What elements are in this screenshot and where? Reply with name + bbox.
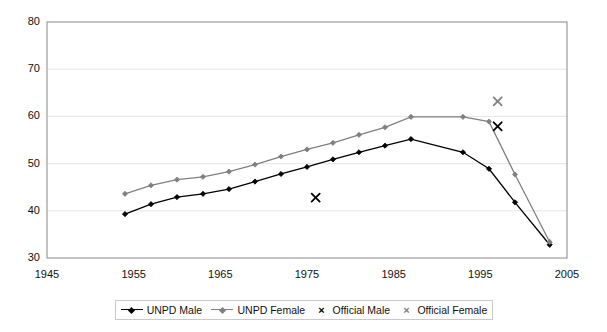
data-point (148, 183, 153, 188)
legend-x-marker-icon: × (315, 305, 329, 316)
data-point (356, 132, 361, 137)
legend-item[interactable]: ×Official Male (313, 304, 393, 316)
legend-label: UNPD Female (237, 304, 305, 316)
chart-plot-area (0, 0, 607, 332)
chart-container: 304050607080 194519551965197519851995200… (0, 0, 607, 332)
legend-x-marker-icon: × (399, 305, 413, 316)
data-point (278, 171, 283, 176)
chart-legend: UNPD MaleUNPD Female×Official Male×Offic… (115, 300, 493, 320)
x-axis-tick-label: 1985 (369, 268, 419, 280)
y-axis-tick-label: 70 (8, 62, 40, 74)
legend-item[interactable]: UNPD Male (119, 304, 204, 316)
data-point (148, 202, 153, 207)
y-axis-tick-label: 60 (8, 109, 40, 121)
data-point (486, 119, 491, 124)
legend-label: Official Female (417, 304, 487, 316)
data-point (382, 125, 387, 130)
legend-item[interactable]: UNPD Female (209, 304, 307, 316)
legend-item[interactable]: ×Official Female (397, 304, 489, 316)
x-axis-tick-label: 1975 (282, 268, 332, 280)
data-point (252, 162, 257, 167)
x-axis-tick-label: 1945 (22, 268, 72, 280)
data-point-x (494, 122, 502, 130)
series-unpd-female (122, 114, 552, 244)
data-point-x (494, 97, 502, 105)
data-point (304, 164, 309, 169)
data-point (278, 154, 283, 159)
legend-line-marker-icon (121, 305, 143, 315)
series-unpd-male (122, 136, 552, 247)
x-axis-tick-label: 2005 (542, 268, 592, 280)
series-official-female (494, 97, 502, 105)
data-point (122, 191, 127, 196)
data-point (174, 195, 179, 200)
plot-frame (47, 22, 567, 258)
data-point (512, 172, 517, 177)
legend-label: Official Male (333, 304, 391, 316)
data-point (122, 212, 127, 217)
data-point (200, 174, 205, 179)
data-point (408, 136, 413, 141)
data-point (304, 147, 309, 152)
y-axis-tick-label: 50 (8, 157, 40, 169)
x-axis-tick-label: 1955 (109, 268, 159, 280)
data-point (460, 114, 465, 119)
y-axis-tick-label: 80 (8, 15, 40, 27)
x-axis-tick-label: 1995 (455, 268, 505, 280)
legend-label: UNPD Male (147, 304, 202, 316)
data-point (252, 179, 257, 184)
legend-line-marker-icon (211, 305, 233, 315)
data-point (200, 191, 205, 196)
x-axis-tick-label: 1965 (195, 268, 245, 280)
data-point (356, 150, 361, 155)
data-point (174, 177, 179, 182)
y-axis-tick-label: 40 (8, 204, 40, 216)
series-official-male (312, 122, 502, 201)
data-point (330, 140, 335, 145)
data-point (408, 114, 413, 119)
data-point (226, 169, 231, 174)
data-point-x (312, 194, 320, 202)
data-point (382, 143, 387, 148)
data-point (330, 157, 335, 162)
data-point (226, 186, 231, 191)
y-axis-tick-label: 30 (8, 251, 40, 263)
